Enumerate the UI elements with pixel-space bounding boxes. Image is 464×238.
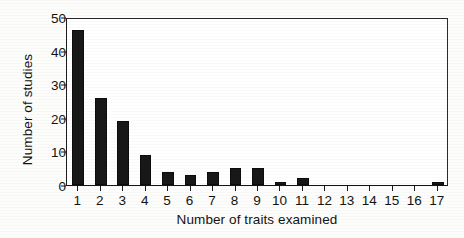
x-tick-mark xyxy=(167,186,168,191)
x-tick-mark xyxy=(212,186,213,191)
x-tick-mark xyxy=(145,186,146,191)
x-tick-mark xyxy=(257,186,258,191)
x-axis-ticks: 1234567891011121314151617 xyxy=(0,0,464,238)
x-tick-mark xyxy=(77,186,78,191)
bar-chart-figure: Number of studies 01020304050 1234567891… xyxy=(0,0,464,238)
x-tick-mark xyxy=(437,186,438,191)
x-tick-mark xyxy=(302,186,303,191)
x-tick-mark xyxy=(324,186,325,191)
x-tick-mark xyxy=(279,186,280,191)
x-tick-mark xyxy=(369,186,370,191)
x-tick-mark xyxy=(190,186,191,191)
x-tick-mark xyxy=(392,186,393,191)
x-tick-mark xyxy=(347,186,348,191)
x-tick-mark xyxy=(122,186,123,191)
x-axis-title: Number of traits examined xyxy=(66,212,448,227)
x-tick-mark xyxy=(235,186,236,191)
x-tick-mark xyxy=(414,186,415,191)
x-tick-mark xyxy=(100,186,101,191)
x-tick-label: 17 xyxy=(422,193,452,208)
